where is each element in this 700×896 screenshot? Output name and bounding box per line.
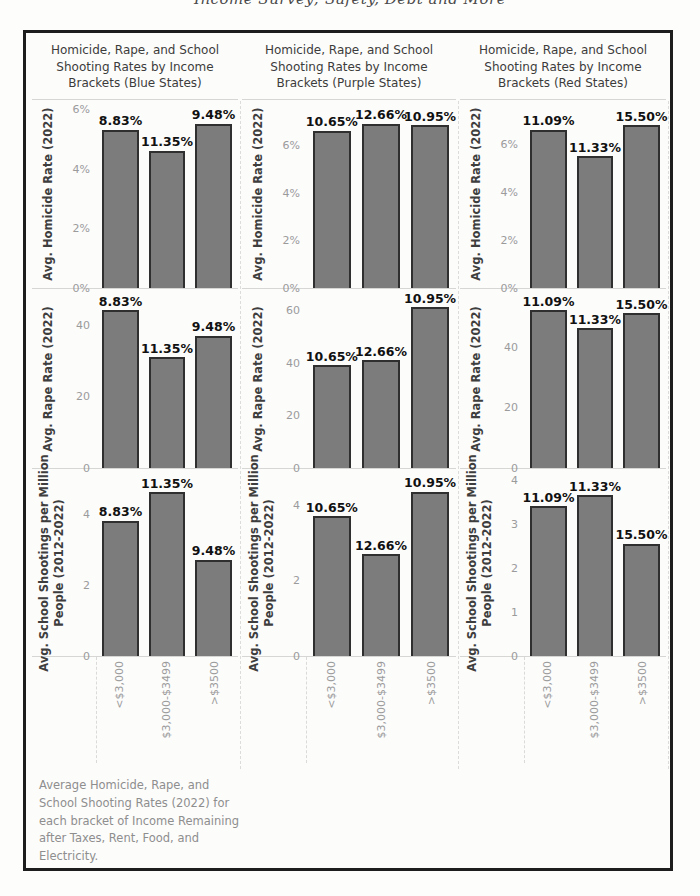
bar	[623, 544, 659, 656]
plot-area: 11.09%11.33%15.50%	[524, 289, 666, 468]
y-axis-title-area: Avg. School Shootings per MillionPeople …	[460, 469, 500, 656]
bar-slot: 12.66%	[358, 100, 405, 288]
y-axis-title: Avg. School Shootings per MillionPeople …	[247, 454, 277, 672]
bar-value-label: 10.65%	[306, 502, 358, 515]
bar-slot: 10.65%	[309, 100, 356, 288]
column-separator-line	[668, 101, 669, 769]
y-axis-title-area: Avg. Homicide Rate (2022)	[460, 100, 492, 288]
bar-slot: 11.33%	[573, 469, 617, 656]
y-axis-title-line: Avg. School Shootings per Million	[247, 454, 262, 672]
y-axis-ticks: 024	[72, 469, 96, 656]
bar-value-label: 10.95%	[404, 111, 456, 124]
y-tick-label: 2	[293, 575, 300, 586]
y-axis-ticks: 02040	[64, 289, 96, 468]
bar-value-label: 10.65%	[306, 351, 358, 364]
bar	[577, 328, 613, 468]
y-tick-label: 20	[76, 391, 90, 402]
bar	[313, 131, 351, 288]
chart-panel-r3-c2: Avg. School Shootings per MillionPeople …	[242, 469, 456, 657]
bar-value-label: 9.48%	[192, 321, 235, 334]
column-blue-states: Homicide, Rape, and School Shooting Rate…	[32, 33, 238, 769]
y-tick-label: 40	[286, 358, 300, 369]
bar	[411, 307, 449, 468]
y-axis-title-area: Avg. Rape Rate (2022)	[460, 289, 492, 468]
bar	[577, 495, 613, 656]
bar-value-label: 10.95%	[404, 477, 456, 490]
x-label-slot: >$3500	[619, 661, 666, 769]
bar-slot: 8.83%	[98, 100, 142, 288]
bar-value-label: 11.09%	[522, 115, 574, 128]
y-axis-title-area: Avg. School Shootings per MillionPeople …	[32, 469, 72, 656]
y-axis-ticks: 0%2%4%6%	[492, 100, 524, 288]
y-tick-label: 4%	[501, 187, 518, 198]
x-category-label: >$3500	[637, 661, 648, 705]
bar-slot: 11.35%	[145, 469, 189, 656]
page-top-clipped-caption-text: Income Survey; Safety, Debt and More	[194, 0, 506, 8]
y-tick-label: 4	[511, 475, 518, 486]
column-title: Homicide, Rape, and School Shooting Rate…	[242, 33, 456, 99]
plot-area: 10.65%12.66%10.95%	[306, 289, 456, 468]
chart-panel-r1-c1: Avg. Homicide Rate (2022)0%2%4%6%8.83%11…	[32, 99, 238, 289]
y-axis-title-line: Avg. Rape Rate (2022)	[41, 306, 56, 452]
bar-value-label: 15.50%	[615, 529, 667, 542]
x-category-label: <$3,000	[326, 661, 337, 709]
y-axis-title: Avg. Homicide Rate (2022)	[251, 107, 266, 280]
y-axis-ticks: 0%2%4%6%	[64, 100, 96, 288]
y-axis-title: Avg. School Shootings per MillionPeople …	[465, 454, 495, 672]
bar-slot: 10.95%	[407, 289, 454, 468]
y-axis-title-line: Avg. School Shootings per Million	[37, 454, 52, 672]
bar-value-label: 10.65%	[306, 116, 358, 129]
y-tick-label: 6%	[501, 139, 518, 150]
x-label-slot: <$3,000	[524, 661, 571, 769]
bar	[102, 521, 138, 656]
bar-slot: 11.09%	[526, 469, 570, 656]
bar-value-label: 12.66%	[355, 540, 407, 553]
y-axis-ticks: 024	[282, 469, 306, 656]
bar	[362, 360, 400, 468]
bar	[530, 310, 566, 468]
y-tick-label: 20	[504, 402, 518, 413]
bar-value-label: 11.35%	[141, 343, 193, 356]
column-title: Homicide, Rape, and School Shooting Rate…	[32, 33, 238, 99]
plot-area: 10.65%12.66%10.95%	[306, 469, 456, 656]
y-tick-label: 2%	[73, 223, 90, 234]
y-axis-title-area: Avg. School Shootings per MillionPeople …	[242, 469, 282, 656]
bar-value-label: 10.95%	[404, 293, 456, 306]
x-category-label: <$3,000	[114, 661, 125, 709]
x-axis-label-slots: <$3,000$3,000-$3499>$3500	[524, 661, 666, 769]
bar-value-label: 11.33%	[569, 314, 621, 327]
y-tick-label: 2	[83, 580, 90, 591]
y-tick-label: 1	[511, 607, 518, 618]
bar-value-label: 9.48%	[192, 545, 235, 558]
bar	[195, 124, 231, 288]
bar-slot: 15.50%	[619, 100, 663, 288]
chart-panel-r2-c3: Avg. Rape Rate (2022)0204011.09%11.33%15…	[460, 289, 666, 469]
plot-area: 8.83%11.35%9.48%	[96, 469, 238, 656]
bar	[102, 310, 138, 468]
y-axis-title-area: Avg. Rape Rate (2022)	[242, 289, 274, 468]
x-label-slot: $3,000-$3499	[571, 661, 618, 769]
bar	[195, 336, 231, 468]
bar	[362, 124, 400, 288]
bar-slot: 9.48%	[191, 100, 235, 288]
y-axis-ticks: 0204060	[274, 289, 306, 468]
x-axis-label-slots: <$3,000$3,000-$3499>$3500	[96, 661, 238, 769]
bar-slot: 9.48%	[191, 289, 235, 468]
bar	[149, 357, 185, 468]
y-axis-title-line: Avg. School Shootings per Million	[465, 454, 480, 672]
y-tick-label: 2	[511, 563, 518, 574]
bar	[411, 492, 449, 656]
bar-slot: 9.48%	[191, 469, 235, 656]
y-axis-title-line: Avg. Homicide Rate (2022)	[469, 107, 484, 280]
x-category-label: >$3500	[209, 661, 220, 705]
bar	[623, 125, 659, 288]
bar-slot: 12.66%	[358, 289, 405, 468]
y-axis-title-area: Avg. Rape Rate (2022)	[32, 289, 64, 468]
y-tick-label: 40	[76, 320, 90, 331]
bar-value-label: 11.35%	[141, 478, 193, 491]
y-axis-title-line: People (2012-2022)	[52, 454, 67, 672]
y-tick-label: 4%	[283, 188, 300, 199]
dashboard-caption: Average Homicide, Rape, and School Shoot…	[39, 777, 241, 866]
y-axis-title-line: Avg. Homicide Rate (2022)	[251, 107, 266, 280]
y-tick-label: 4	[293, 500, 300, 511]
